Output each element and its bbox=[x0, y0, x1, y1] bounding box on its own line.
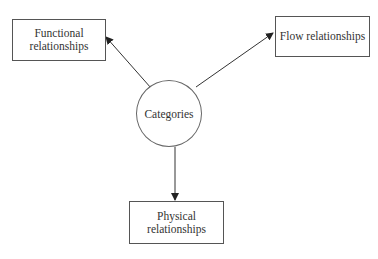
physical-relationships-node: Physical relationships bbox=[129, 201, 224, 244]
flow-label: Flow relationships bbox=[280, 30, 365, 43]
arrow-to-functional bbox=[106, 37, 151, 88]
flow-relationships-node: Flow relationships bbox=[275, 16, 370, 57]
arrow-to-flow bbox=[196, 33, 273, 87]
physical-label-line2: relationships bbox=[147, 223, 206, 236]
categories-node: Categories bbox=[136, 80, 202, 147]
functional-relationships-node: Functional relationships bbox=[12, 19, 106, 61]
functional-label-line2: relationships bbox=[30, 40, 89, 53]
physical-label-line1: Physical bbox=[147, 210, 206, 223]
categories-label: Categories bbox=[144, 108, 193, 120]
functional-label-line1: Functional bbox=[30, 27, 89, 40]
